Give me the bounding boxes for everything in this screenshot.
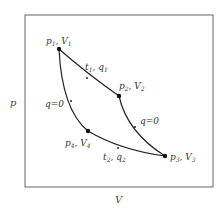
arrow-mark-1-2 xyxy=(86,77,88,79)
process-label-1-2: t1, q1 xyxy=(85,62,108,73)
state-point-4 xyxy=(86,129,90,133)
arrow-mark-4-1 xyxy=(70,100,72,102)
pv-diagram: p V p1, V1 p2, V2 p3, V3 p4, V4 t1, q1 q… xyxy=(0,0,222,215)
process-label-4-1: q=0 xyxy=(45,99,64,109)
state-point-1 xyxy=(57,47,61,51)
process-label-3-4: t2, q2 xyxy=(103,152,126,163)
isotherm-3-4 xyxy=(88,131,165,156)
process-label-2-3: q=0 xyxy=(140,116,159,126)
x-axis-label: V xyxy=(115,194,124,205)
state-label-4: p4, V4 xyxy=(65,138,91,149)
state-label-1: p1, V1 xyxy=(46,36,72,47)
state-label-2: p2, V2 xyxy=(119,81,145,92)
arrow-mark-3-4 xyxy=(117,147,119,149)
y-axis-label: p xyxy=(10,97,17,108)
state-label-3: p3, V3 xyxy=(170,152,196,163)
state-point-3 xyxy=(163,154,167,158)
state-point-2 xyxy=(117,94,121,98)
arrow-mark-2-3 xyxy=(134,126,136,128)
